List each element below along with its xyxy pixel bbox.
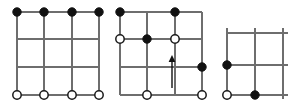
node-filled (13, 8, 21, 16)
node-open (143, 91, 151, 99)
node-open (116, 35, 124, 43)
node-open (223, 91, 231, 99)
node-open (171, 35, 179, 43)
lattice-figure (0, 0, 300, 107)
node-filled (143, 35, 151, 43)
node-filled (251, 91, 259, 99)
node-filled (223, 61, 231, 69)
node-open (95, 91, 103, 99)
node-filled (116, 8, 124, 16)
node-filled (171, 8, 179, 16)
node-filled (68, 8, 76, 16)
node-open (40, 91, 48, 99)
node-open (13, 91, 21, 99)
node-open (198, 91, 206, 99)
node-filled (40, 8, 48, 16)
node-filled (95, 8, 103, 16)
figure-canvas (0, 0, 300, 107)
node-filled (198, 63, 206, 71)
node-open (68, 91, 76, 99)
